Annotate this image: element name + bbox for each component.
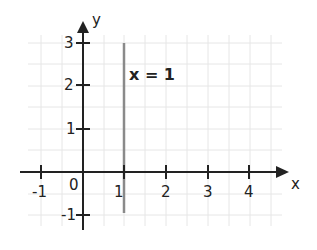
x-axis-label: x [291, 175, 300, 193]
y-tick-label: 2 [64, 76, 74, 94]
origin-label: 0 [69, 176, 79, 194]
y-axis-label: y [92, 11, 101, 29]
x-axis [20, 165, 280, 179]
x-tick-label: 1 [114, 183, 124, 201]
x-tick-label: 4 [244, 183, 254, 201]
coordinate-plane: x y 0 -1 1 2 3 4 3 2 1 -1 x = 1 [0, 0, 317, 250]
x-tick-label: 3 [203, 183, 213, 201]
y-tick-label: 3 [64, 34, 74, 52]
x-axis-arrow-icon [276, 166, 289, 178]
y-tick-label: -1 [61, 206, 76, 224]
equation-label: x = 1 [129, 65, 175, 84]
y-axis-arrow-icon [77, 21, 89, 33]
x-tick-label: 2 [161, 183, 171, 201]
y-tick-label: 1 [66, 120, 76, 138]
x-tick-label: -1 [32, 183, 47, 201]
y-axis [76, 30, 90, 230]
